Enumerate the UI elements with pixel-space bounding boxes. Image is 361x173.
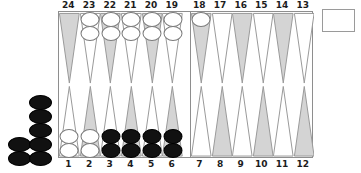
point-label-18: 18 <box>189 0 210 11</box>
white-checker[interactable] <box>163 26 182 41</box>
board-half-left <box>59 12 183 157</box>
point-1[interactable] <box>59 85 80 158</box>
black-checker[interactable] <box>29 95 52 110</box>
point-18[interactable] <box>191 12 212 85</box>
point-9[interactable] <box>232 85 253 158</box>
white-checker[interactable] <box>81 129 100 144</box>
checker-stack-point-22[interactable] <box>101 12 120 40</box>
point-label-22: 22 <box>99 0 120 11</box>
black-checker[interactable] <box>101 143 120 158</box>
white-checker[interactable] <box>60 129 79 144</box>
point-triangle <box>212 12 233 85</box>
point-11[interactable] <box>273 85 294 158</box>
point-triangle <box>294 12 315 85</box>
point-label-24: 24 <box>58 0 79 11</box>
checker-stack-point-19[interactable] <box>163 12 182 40</box>
checker-stack-point-2[interactable] <box>81 129 100 157</box>
white-checker[interactable] <box>81 143 100 158</box>
point-17[interactable] <box>212 12 233 85</box>
point-label-7: 7 <box>189 159 210 170</box>
point-24[interactable] <box>59 12 80 85</box>
point-19[interactable] <box>162 12 183 85</box>
point-label-12: 12 <box>292 159 313 170</box>
point-label-9: 9 <box>230 159 251 170</box>
point-22[interactable] <box>100 12 121 85</box>
point-label-20: 20 <box>141 0 162 11</box>
black-checker[interactable] <box>143 129 162 144</box>
black-checker[interactable] <box>163 129 182 144</box>
point-label-21: 21 <box>120 0 141 11</box>
point-13[interactable] <box>294 12 315 85</box>
point-10[interactable] <box>253 85 274 158</box>
point-8[interactable] <box>212 85 233 158</box>
dice-tray[interactable] <box>322 9 355 32</box>
point-label-17: 17 <box>210 0 231 11</box>
checker-stack-point-5[interactable] <box>143 129 162 157</box>
point-label-1: 1 <box>58 159 79 170</box>
black-checker[interactable] <box>101 129 120 144</box>
checker-stack-point-1[interactable] <box>60 129 79 157</box>
point-14[interactable] <box>273 12 294 85</box>
point-labels-bottom-left: 123456 <box>58 159 182 170</box>
black-checker[interactable] <box>122 129 141 144</box>
point-6[interactable] <box>162 85 183 158</box>
bottom-right-quadrant <box>191 85 314 158</box>
white-checker[interactable] <box>101 26 120 41</box>
black-checker[interactable] <box>8 151 31 166</box>
checker-stack-point-20[interactable] <box>143 12 162 40</box>
checker-stack-point-18[interactable] <box>192 12 211 26</box>
black-checker[interactable] <box>29 109 52 124</box>
white-checker[interactable] <box>143 26 162 41</box>
point-16[interactable] <box>232 12 253 85</box>
point-23[interactable] <box>80 12 101 85</box>
black-checker[interactable] <box>29 123 52 138</box>
point-4[interactable] <box>121 85 142 158</box>
white-checker[interactable] <box>122 26 141 41</box>
point-triangle <box>232 85 253 158</box>
point-triangle <box>253 85 274 158</box>
white-checker[interactable] <box>101 12 120 27</box>
black-checker[interactable] <box>29 151 52 166</box>
white-checker[interactable] <box>60 143 79 158</box>
white-checker[interactable] <box>81 12 100 27</box>
black-checker[interactable] <box>143 143 162 158</box>
white-checker[interactable] <box>143 12 162 27</box>
off-column-left[interactable] <box>8 138 31 166</box>
black-checker[interactable] <box>163 143 182 158</box>
black-borne-off-pile[interactable] <box>8 92 56 166</box>
point-label-15: 15 <box>251 0 272 11</box>
point-12[interactable] <box>294 85 315 158</box>
checker-stack-point-3[interactable] <box>101 129 120 157</box>
black-checker[interactable] <box>8 137 31 152</box>
point-label-13: 13 <box>292 0 313 11</box>
backgammon-screenshot: 242322212019 181716151413 123456 7891011… <box>0 0 361 173</box>
board-half-right <box>190 12 314 157</box>
backgammon-board <box>58 11 313 158</box>
point-labels-top-left: 242322212019 <box>58 0 182 11</box>
checker-stack-point-21[interactable] <box>122 12 141 40</box>
off-column-right[interactable] <box>29 96 52 166</box>
checker-stack-point-23[interactable] <box>81 12 100 40</box>
point-21[interactable] <box>121 12 142 85</box>
top-right-quadrant <box>191 12 314 85</box>
white-checker[interactable] <box>81 26 100 41</box>
point-label-23: 23 <box>79 0 100 11</box>
point-15[interactable] <box>253 12 274 85</box>
point-7[interactable] <box>191 85 212 158</box>
point-triangle <box>212 85 233 158</box>
checker-stack-point-4[interactable] <box>122 129 141 157</box>
point-label-8: 8 <box>210 159 231 170</box>
point-3[interactable] <box>100 85 121 158</box>
black-checker[interactable] <box>122 143 141 158</box>
point-5[interactable] <box>142 85 163 158</box>
checker-stack-point-6[interactable] <box>163 129 182 157</box>
point-labels-top-right: 181716151413 <box>189 0 313 11</box>
white-checker[interactable] <box>122 12 141 27</box>
point-2[interactable] <box>80 85 101 158</box>
white-checker[interactable] <box>192 12 211 27</box>
white-checker[interactable] <box>163 12 182 27</box>
black-checker[interactable] <box>29 137 52 152</box>
point-triangle <box>294 85 315 158</box>
point-20[interactable] <box>142 12 163 85</box>
point-label-5: 5 <box>141 159 162 170</box>
